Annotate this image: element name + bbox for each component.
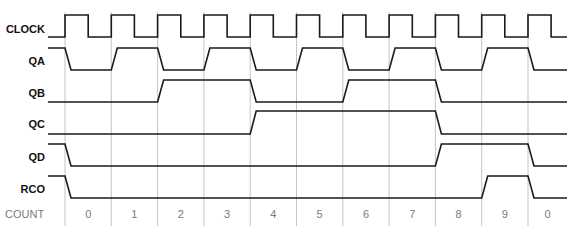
count-value: 2 [178,208,184,220]
count-value: 0 [85,208,91,220]
count-value: 4 [270,208,276,220]
count-value: 7 [409,208,415,220]
count-value: 8 [455,208,461,220]
signal-label-rco: RCO [21,183,46,195]
count-value: 0 [544,208,550,220]
signal-label-qb: QB [29,87,46,99]
count-value: 6 [363,208,369,220]
timing-diagram: CLOCKQAQBQCQDRCO COUNT 01234567890 [0,0,575,229]
signal-label-qd: QD [29,151,46,163]
count-label: COUNT [5,208,44,220]
count-value: 1 [131,208,137,220]
signal-label-clock: CLOCK [6,23,45,35]
count-value: 9 [502,208,508,220]
signal-label-qc: QC [29,118,46,130]
count-value: 5 [317,208,323,220]
signal-label-qa: QA [29,55,46,67]
count-value: 3 [224,208,230,220]
background [0,0,575,229]
